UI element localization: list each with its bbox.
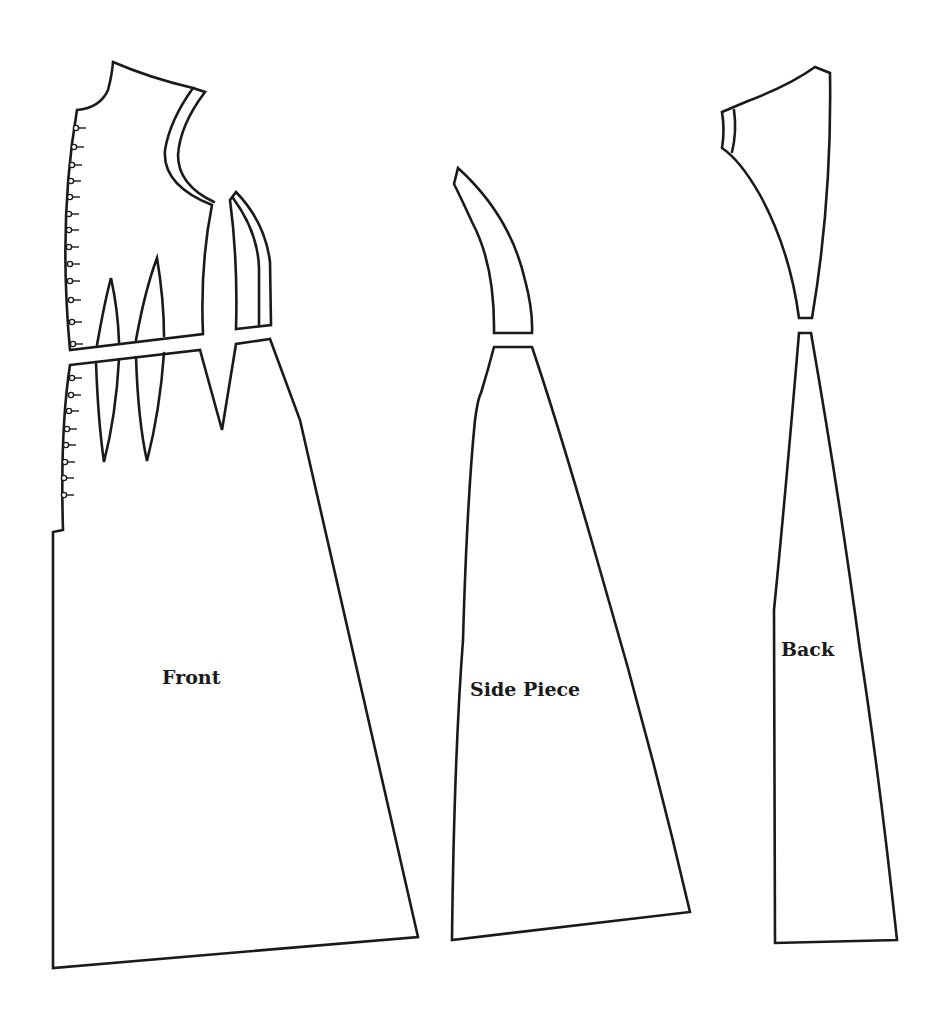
- front-bodice: [65, 62, 214, 350]
- front-skirt: [53, 339, 418, 968]
- side-piece: [452, 168, 690, 940]
- side-piece-label: Side Piece: [470, 678, 580, 700]
- back-piece: [722, 67, 897, 943]
- front-shoulder-strap: [230, 192, 271, 329]
- pattern-diagram: [0, 0, 947, 1020]
- back-label: Back: [781, 638, 834, 660]
- front-label: Front: [162, 666, 220, 688]
- button-loops: [61, 125, 86, 497]
